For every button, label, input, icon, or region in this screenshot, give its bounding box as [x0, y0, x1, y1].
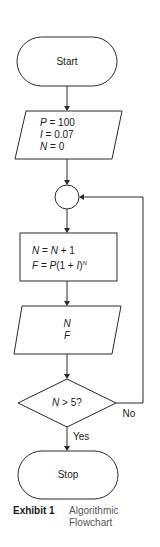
- arrowhead-icon: [64, 106, 70, 111]
- arrowhead-icon: [64, 228, 70, 233]
- connector-circle: [55, 185, 79, 209]
- output-line-n: N: [47, 318, 87, 330]
- arrowhead-icon: [64, 301, 70, 306]
- caption-title-line1: Algorithmic: [69, 505, 118, 517]
- compute-text: N = N + 1 F = P(1 + I)N: [32, 245, 112, 272]
- no-label: No: [121, 408, 137, 420]
- output-line-f: F: [47, 330, 87, 342]
- arrowhead-icon: [64, 374, 70, 379]
- arrowhead-icon: [79, 194, 84, 200]
- caption-title-line2: Flowchart: [69, 517, 112, 529]
- compute-line-1: N = N + 1: [32, 245, 112, 257]
- start-label: Start: [17, 56, 117, 68]
- init-line-n: N = 0: [40, 141, 100, 153]
- arrowhead-icon: [64, 180, 70, 185]
- compute-line-2: F = P(1 + I)N: [32, 257, 112, 272]
- init-line-i: I = 0.07: [40, 129, 100, 141]
- output-text: N F: [47, 318, 87, 342]
- decision-label: N > 5?: [37, 397, 97, 409]
- init-line-p: P = 100: [40, 117, 100, 129]
- yes-label: Yes: [73, 431, 93, 443]
- flowchart-diagram: [0, 0, 160, 547]
- stop-label: Stop: [18, 469, 118, 481]
- arrowhead-icon: [64, 446, 70, 451]
- caption-exhibit: Exhibit 1: [13, 505, 55, 517]
- no-loop-line: [82, 197, 143, 403]
- init-text: P = 100 I = 0.07 N = 0: [40, 117, 100, 153]
